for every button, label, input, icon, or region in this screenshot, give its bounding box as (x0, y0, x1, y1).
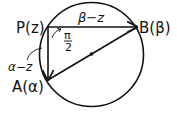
label-b: B(β) (139, 19, 171, 37)
center-dot (90, 52, 94, 56)
label-alpha-minus-z: α−z (8, 60, 33, 74)
label-beta-minus-z: β−z (77, 10, 105, 25)
circle-diagram: P(z) B(β) A(α) β−z α−z π 2 (0, 0, 177, 115)
angle-denominator: 2 (65, 41, 72, 54)
label-p: P(z) (16, 19, 45, 37)
label-a: A(α) (12, 78, 44, 96)
